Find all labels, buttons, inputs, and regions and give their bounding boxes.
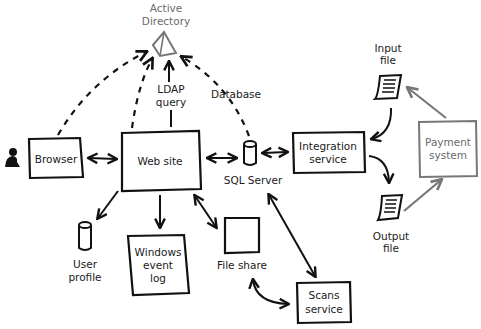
input-file-label-1: Input — [374, 42, 401, 54]
output-file-node[interactable]: Output file — [373, 195, 409, 254]
file-share-label: File share — [217, 259, 267, 271]
payment-system-node[interactable]: Payment system — [419, 121, 477, 177]
input-file-label-2: file — [380, 54, 396, 66]
browser-website-arrow — [89, 158, 116, 159]
website-userprofile-arrow — [98, 191, 118, 218]
active-directory-label-2: Directory — [142, 15, 190, 27]
payment-system-label-2: system — [429, 149, 467, 161]
fileshare-scans-arrow — [253, 280, 288, 304]
scans-service-node[interactable]: Scans service — [297, 282, 351, 323]
sql-scans-arrow — [269, 195, 315, 276]
file-share-node[interactable]: File share — [217, 218, 267, 271]
sql-server-label: SQL Server — [224, 174, 283, 186]
user-profile-label-1: User — [73, 258, 98, 270]
cylinder-icon — [79, 222, 91, 250]
website-fileshare-arrow — [195, 196, 216, 227]
architecture-diagram: Active Directory LDAP query Database Bro… — [0, 0, 481, 329]
file-share-box — [225, 218, 259, 253]
payment-inputfile-arrow — [408, 88, 446, 118]
database-edge-label: Database — [211, 88, 261, 100]
ldap-label-1: LDAP — [157, 83, 184, 95]
person-icon — [5, 148, 20, 167]
input-file-node[interactable]: Input file — [374, 42, 401, 99]
payment-system-label-1: Payment — [425, 136, 471, 148]
windows-event-log-label-1: Windows — [135, 246, 182, 258]
ldap-label-2: query — [156, 96, 186, 108]
output-file-label-2: file — [383, 242, 399, 254]
web-site-node[interactable]: Web site — [122, 131, 201, 191]
scans-service-label-1: Scans — [309, 289, 340, 301]
sql-server-node[interactable]: SQL Server — [224, 141, 283, 186]
website-to-ad-dashed-arrow — [132, 59, 152, 128]
active-directory-node[interactable]: Active Directory — [142, 2, 190, 56]
windows-event-log-node[interactable]: Windows event log — [128, 235, 189, 295]
sql-integration-arrow — [263, 152, 287, 153]
scroll-document-icon — [378, 195, 402, 220]
integration-service-node[interactable]: Integration service — [293, 132, 365, 173]
integration-outputfile-arrow — [369, 156, 389, 182]
integration-service-label-2: service — [309, 153, 347, 165]
inputfile-integration-arrow — [372, 108, 391, 139]
integration-service-label-1: Integration — [299, 140, 357, 152]
web-site-label: Web site — [137, 155, 182, 167]
windows-event-log-label-3: log — [150, 272, 166, 284]
output-file-label-1: Output — [373, 230, 409, 242]
user-profile-label-2: profile — [68, 271, 101, 283]
active-directory-label-1: Active — [150, 2, 182, 14]
pyramid-icon — [153, 32, 176, 56]
cylinder-icon — [244, 141, 256, 165]
windows-event-log-label-2: event — [143, 259, 173, 271]
scroll-document-icon — [375, 75, 401, 99]
outputfile-payment-arrow — [404, 180, 441, 211]
browser-node[interactable]: Browser — [29, 138, 83, 178]
scans-service-label-2: service — [305, 303, 343, 315]
user-profile-node[interactable]: User profile — [68, 222, 101, 283]
browser-label: Browser — [35, 153, 78, 165]
